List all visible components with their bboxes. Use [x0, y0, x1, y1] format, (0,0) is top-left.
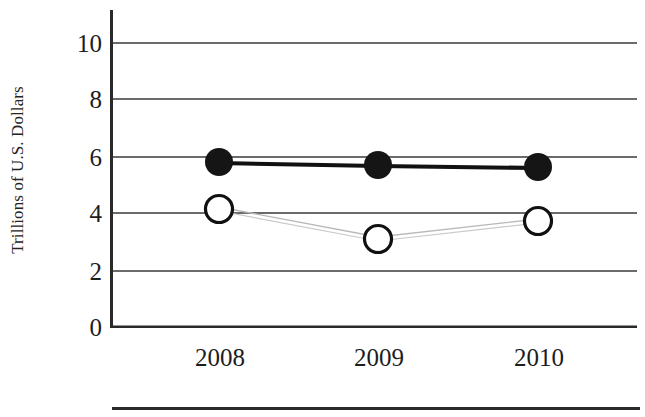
plot-svg: [110, 10, 637, 328]
y-axis-title-text: Trillions of U.S. Dollars: [8, 86, 28, 254]
y-tick-label-0: 0: [32, 315, 102, 340]
chart-figure: Trillions of U.S. Dollars 10 8 6 4 2 0: [0, 0, 645, 417]
y-tick-label-2: 2: [32, 259, 102, 284]
series-open-circle: [206, 196, 552, 253]
y-tick-label-10: 10: [32, 31, 102, 56]
plot-area: [110, 10, 637, 328]
y-tick-label-4: 4: [32, 201, 102, 226]
data-point-open-2009: [365, 226, 392, 253]
data-point-open-2008: [206, 196, 233, 223]
x-tick-label-2010: 2010: [479, 345, 599, 370]
data-point-open-2010: [525, 208, 552, 235]
y-axis-tick-labels: 10 8 6 4 2 0: [30, 0, 102, 340]
data-point-filled-2008: [205, 148, 233, 176]
y-tick-label-6: 6: [32, 145, 102, 170]
x-axis-tick-labels: 2008 2009 2010: [0, 345, 645, 387]
data-point-filled-2010: [524, 153, 552, 181]
series-filled-circle: [205, 148, 552, 181]
x-tick-label-2008: 2008: [160, 345, 280, 370]
data-point-filled-2009: [364, 151, 392, 179]
legend-box-top-border: [112, 407, 640, 417]
x-tick-label-2009: 2009: [319, 345, 439, 370]
y-tick-label-8: 8: [32, 87, 102, 112]
